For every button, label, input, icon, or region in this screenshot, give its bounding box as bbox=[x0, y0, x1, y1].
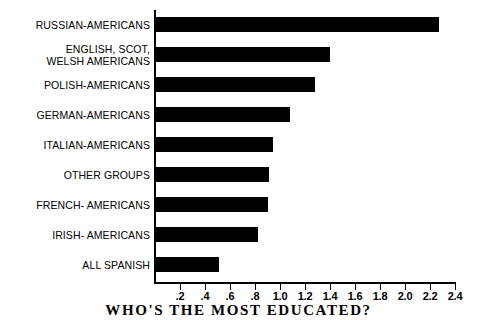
bar bbox=[155, 77, 315, 92]
bar bbox=[155, 197, 268, 212]
x-axis-tick-label: 2.4 bbox=[442, 290, 468, 302]
x-axis-tick-label: 1.8 bbox=[367, 290, 393, 302]
x-axis-tick-label: .2 bbox=[167, 290, 193, 302]
bar bbox=[155, 137, 273, 152]
x-axis-tick-label: 1.4 bbox=[317, 290, 343, 302]
category-label: IRISH- AMERICANS bbox=[52, 229, 150, 241]
x-axis-tick-label: 2.0 bbox=[392, 290, 418, 302]
x-axis-tick-label: 1.2 bbox=[292, 290, 318, 302]
x-axis-tick-label: 2.2 bbox=[417, 290, 443, 302]
category-label: GERMAN-AMERICANS bbox=[36, 109, 150, 121]
category-label: POLISH-AMERICANS bbox=[44, 79, 150, 91]
x-axis-tick-label: 1.0 bbox=[267, 290, 293, 302]
bar bbox=[155, 227, 258, 242]
bar bbox=[155, 257, 219, 272]
x-axis-tick-label: .4 bbox=[192, 290, 218, 302]
category-label: ALL SPANISH bbox=[82, 259, 150, 271]
category-label: RUSSIAN-AMERICANS bbox=[36, 19, 150, 31]
bar-chart-figure: RUSSIAN-AMERICANSENGLISH, SCOT, WELSH AM… bbox=[0, 0, 477, 320]
category-label: ITALIAN-AMERICANS bbox=[43, 139, 150, 151]
x-axis-tick-label: .6 bbox=[217, 290, 243, 302]
bar bbox=[155, 17, 439, 32]
bar bbox=[155, 167, 269, 182]
bar bbox=[155, 47, 330, 62]
category-label: ENGLISH, SCOT, WELSH AMERICANS bbox=[46, 43, 150, 67]
bar bbox=[155, 107, 290, 122]
plot-area bbox=[155, 10, 455, 283]
x-axis-tick-label: 1.6 bbox=[342, 290, 368, 302]
category-label: OTHER GROUPS bbox=[64, 169, 150, 181]
chart-title: WHO'S THE MOST EDUCATED? bbox=[0, 302, 477, 319]
category-label: FRENCH- AMERICANS bbox=[36, 199, 150, 211]
x-axis-tick-label: .8 bbox=[242, 290, 268, 302]
